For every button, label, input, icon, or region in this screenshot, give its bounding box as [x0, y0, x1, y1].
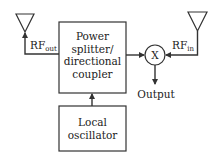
rf-out-label: RFout: [30, 39, 57, 55]
local-oscillator-label: Local oscillator: [59, 116, 126, 141]
splitter-line-3: directional: [59, 55, 126, 68]
splitter-line-4: coupler: [59, 68, 126, 81]
rf-out-main: RF: [30, 39, 45, 51]
splitter-line-2: splitter/: [59, 43, 126, 56]
power-splitter-label: Power splitter/ directional coupler: [59, 30, 126, 80]
rf-out-sub: out: [45, 45, 57, 53]
output-label: Output: [137, 88, 175, 100]
splitter-line-1: Power: [59, 30, 126, 43]
rf-in-sub: in: [187, 45, 194, 53]
oscillator-line-1: Local: [59, 116, 126, 129]
oscillator-line-2: oscillator: [59, 129, 126, 142]
rf-in-main: RF: [172, 39, 187, 51]
receive-antenna-icon: [188, 12, 207, 31]
transmit-antenna-icon: [16, 14, 34, 32]
mixer-symbol: X: [145, 49, 165, 61]
rf-in-label: RFin: [172, 39, 194, 55]
